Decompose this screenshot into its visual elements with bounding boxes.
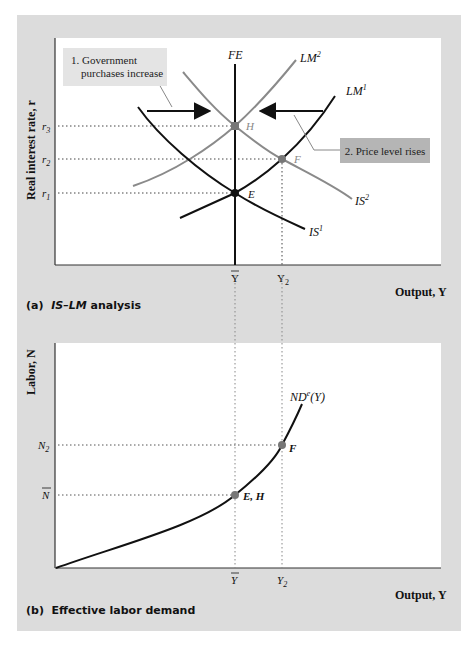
tick-ybar-b: Y xyxy=(231,574,239,586)
label-e-a: E xyxy=(247,188,255,200)
panel-b-guides xyxy=(58,445,282,495)
tick-r2: r2 xyxy=(42,153,50,168)
ylabel-b: Labor, N xyxy=(24,349,38,395)
is2-curve xyxy=(183,72,352,199)
is1-curve xyxy=(138,107,305,229)
tick-ybar-a: Y xyxy=(231,272,239,284)
point-h xyxy=(231,122,239,130)
point-f-a xyxy=(278,155,286,163)
tick-r3: r3 xyxy=(42,120,50,135)
label-eh-b: E, H xyxy=(242,490,265,502)
label-f-b: F xyxy=(288,442,297,454)
annotation-government-purchases: 1. Government purchases increase xyxy=(63,48,167,86)
point-eh-b xyxy=(231,491,239,499)
tick-y2-b: Y2 xyxy=(277,574,287,589)
figure-svg: Real interest rate, r Output, Y Labor, N… xyxy=(0,0,476,646)
label-lm2: LM2 xyxy=(299,50,321,65)
xlabel-b: Output, Y xyxy=(395,588,447,602)
label-h: H xyxy=(245,120,255,132)
annotation-1-line2: purchases increase xyxy=(71,67,167,80)
caption-b: (b) Effective labor demand xyxy=(26,604,195,617)
point-e-a xyxy=(231,189,239,197)
nd-curve xyxy=(56,404,302,568)
point-f-b xyxy=(278,441,286,449)
caption-b-letter: (b) xyxy=(26,604,44,617)
ylabel-a: Real interest rate, r xyxy=(24,100,38,200)
label-lm1: LM1 xyxy=(345,83,367,98)
caption-a-letter: (a) xyxy=(26,299,43,312)
label-nd: NDe(Y) xyxy=(289,389,325,404)
vertical-guides xyxy=(235,275,282,568)
caption-a-rest: analysis xyxy=(87,299,141,312)
label-is1: IS1 xyxy=(308,224,323,239)
tick-y2-a: Y2 xyxy=(277,272,289,287)
tick-n2: N2 xyxy=(37,439,49,454)
caption-a: (a) IS–LM analysis xyxy=(26,299,141,312)
tick-r1: r1 xyxy=(42,187,50,202)
caption-a-italic: IS–LM xyxy=(51,299,86,312)
panel-b-axes xyxy=(55,343,441,568)
annotation-price-level: 2. Price level rises xyxy=(340,138,430,163)
annotation-2-text: 2. Price level rises xyxy=(345,145,426,157)
lm1-curve xyxy=(180,96,335,218)
xlabel-a: Output, Y xyxy=(395,285,447,299)
annotation-1-line1: 1. Government xyxy=(71,54,167,67)
label-is2: IS2 xyxy=(354,193,369,208)
label-fe: FE xyxy=(227,48,243,62)
label-f-a: F xyxy=(293,153,301,165)
caption-b-text: Effective labor demand xyxy=(52,604,196,617)
tick-nbar: N xyxy=(41,489,50,501)
